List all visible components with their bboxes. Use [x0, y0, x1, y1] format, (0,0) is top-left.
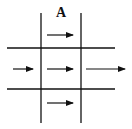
label-a: A [56, 5, 67, 20]
diagram: A [0, 0, 132, 129]
